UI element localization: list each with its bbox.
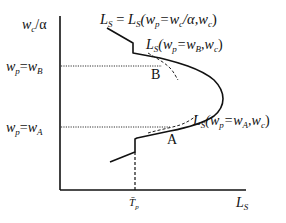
wB-w2: w: [28, 59, 37, 74]
curve-B-label: LS(wp=wB,wc): [146, 38, 223, 54]
point-B-label: B: [151, 68, 160, 82]
wA-eq: =: [20, 120, 28, 135]
y-tick-label-wB: wp=wB: [6, 60, 43, 76]
y-axis-top-label: wc/α: [22, 18, 47, 34]
wA-w1: w: [6, 120, 15, 135]
x-axis-label: LS: [236, 196, 248, 212]
x-tick-label-Tp: T̄p: [129, 197, 139, 211]
main-curve-label: LS = LS(wp=wc/α,wc): [100, 12, 217, 29]
wA-s2: A: [37, 127, 43, 137]
wB-eq: =: [20, 59, 28, 74]
y-label-rest: /α: [35, 17, 46, 32]
wA-w2: w: [28, 120, 37, 135]
wB-s2: B: [37, 66, 43, 76]
diagram-canvas: wc/α wp=wB wp=wA LS = LS(wp=wc/α,wc) LS(…: [0, 0, 286, 223]
y-tick-label-wA: wp=wA: [6, 121, 43, 137]
point-A-label: A: [167, 133, 177, 147]
curve-A-label: LS(wp=wA,wc): [193, 114, 270, 130]
wB-w1: w: [6, 59, 15, 74]
y-label-w: w: [22, 17, 31, 32]
